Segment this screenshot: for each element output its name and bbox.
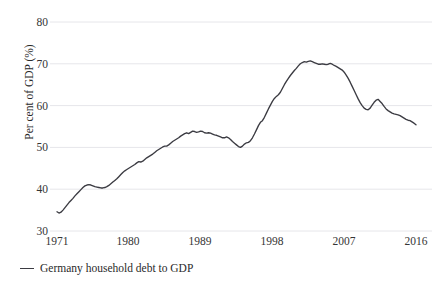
legend: Germany household debt to GDP [20, 262, 193, 274]
gridlines [50, 22, 432, 231]
legend-line-swatch [20, 268, 34, 269]
legend-label-germany-household-debt: Germany household debt to GDP [40, 262, 193, 274]
chart-figure: Per cent of GDP (%) 80 70 60 50 40 30 19… [0, 0, 445, 287]
plot-area [0, 0, 445, 287]
series-line-germany-household-debt [57, 61, 416, 213]
